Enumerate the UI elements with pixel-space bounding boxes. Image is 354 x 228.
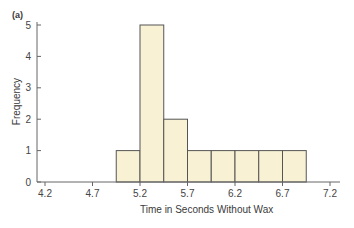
histogram-bar xyxy=(235,151,259,182)
histogram-chart: 0123454.24.75.25.76.26.77.2 xyxy=(0,0,354,228)
histogram-bar xyxy=(164,119,188,182)
histogram-bar xyxy=(211,151,235,182)
x-tick-label: 5.2 xyxy=(133,188,147,199)
x-tick-label: 4.7 xyxy=(86,188,100,199)
y-tick-label: 5 xyxy=(25,20,31,31)
x-tick-label: 6.7 xyxy=(276,188,290,199)
histogram-bar xyxy=(140,25,164,182)
y-tick-label: 1 xyxy=(25,145,31,156)
x-tick-label: 4.2 xyxy=(38,188,52,199)
y-tick-label: 4 xyxy=(25,51,31,62)
histogram-bar xyxy=(188,151,212,182)
y-tick-label: 2 xyxy=(25,114,31,125)
x-tick-label: 6.2 xyxy=(228,188,242,199)
y-tick-label: 3 xyxy=(25,82,31,93)
histogram-bar xyxy=(116,151,140,182)
x-tick-label: 7.2 xyxy=(323,188,337,199)
y-tick-label: 0 xyxy=(25,177,31,188)
histogram-bar xyxy=(283,151,307,182)
histogram-bar xyxy=(259,151,283,182)
x-tick-label: 5.7 xyxy=(181,188,195,199)
